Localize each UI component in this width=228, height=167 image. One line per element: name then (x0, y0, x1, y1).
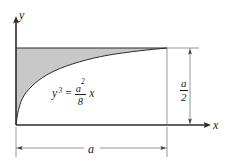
math-figure: y x y3 = a2 8 x a a 2 (0, 0, 228, 167)
curve-equation-label: y3 = a2 8 x (52, 81, 94, 107)
equation-lhs-base: y (52, 88, 57, 100)
dimension-label-height: a 2 (180, 78, 188, 103)
y-axis-label: y (19, 9, 24, 21)
equation-lhs-exponent: 3 (59, 87, 63, 95)
x-axis-label: x (213, 119, 218, 131)
equation-fraction: a2 8 (75, 81, 86, 107)
equation-fraction-denominator: 8 (75, 96, 86, 107)
dimension-label-width: a (88, 143, 94, 155)
height-fraction: a 2 (180, 78, 188, 103)
figure-canvas (0, 0, 228, 167)
equation-fraction-numerator: a2 (75, 81, 86, 94)
equation-numerator-exponent: 2 (81, 77, 85, 86)
equation-equals-sign: = (65, 88, 72, 100)
height-fraction-denominator: 2 (180, 92, 188, 104)
height-fraction-numerator: a (180, 78, 188, 90)
equation-trailing-variable: x (89, 88, 94, 100)
